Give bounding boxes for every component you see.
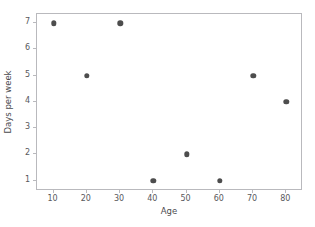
data-point: [217, 178, 222, 183]
y-tick-mark: [33, 48, 36, 49]
y-tick-mark: [33, 75, 36, 76]
data-point: [284, 99, 289, 104]
data-point: [250, 73, 255, 78]
x-tick-mark: [53, 190, 54, 193]
x-tick-label: 80: [280, 194, 290, 204]
x-tick-label: 30: [114, 194, 124, 204]
y-axis-label-text: Days per week: [3, 70, 13, 133]
data-point: [151, 178, 156, 183]
x-tick-mark: [285, 190, 286, 193]
x-tick-label: 60: [214, 194, 224, 204]
x-tick-label: 40: [147, 194, 157, 204]
data-points-layer: [37, 14, 301, 189]
y-tick-mark: [33, 180, 36, 181]
y-tick-label: 1: [25, 175, 30, 185]
y-tick-label: 2: [25, 148, 30, 158]
x-tick-label: 20: [81, 194, 91, 204]
x-tick-mark: [252, 190, 253, 193]
y-tick-mark: [33, 101, 36, 102]
x-tick-mark: [186, 190, 187, 193]
x-tick-label: 70: [247, 194, 257, 204]
y-tick-label: 7: [25, 17, 30, 27]
y-axis-label: Days per week: [2, 13, 13, 190]
y-tick-label: 3: [25, 122, 30, 132]
x-tick-mark: [219, 190, 220, 193]
x-axis-label: Age: [36, 206, 302, 217]
data-point: [84, 73, 89, 78]
data-point: [117, 20, 122, 25]
y-tick-mark: [33, 153, 36, 154]
y-tick-mark: [33, 127, 36, 128]
y-tick-label: 4: [25, 96, 30, 106]
scatter-chart-figure: Age Days per week 1020304050607080123456…: [0, 0, 315, 227]
data-point: [184, 152, 189, 157]
plot-area: [36, 13, 302, 190]
x-tick-mark: [152, 190, 153, 193]
y-tick-label: 5: [25, 70, 30, 80]
data-point: [51, 20, 56, 25]
x-tick-label: 50: [181, 194, 191, 204]
x-tick-mark: [86, 190, 87, 193]
x-tick-label: 10: [48, 194, 58, 204]
y-tick-mark: [33, 22, 36, 23]
y-tick-label: 6: [25, 43, 30, 53]
x-tick-mark: [119, 190, 120, 193]
